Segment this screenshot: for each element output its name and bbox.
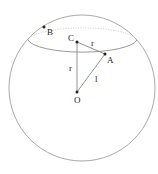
- label-A: A: [107, 55, 114, 65]
- label-r-CA: r: [91, 38, 94, 48]
- point-B: [43, 26, 46, 29]
- label-l-OA: l: [95, 74, 98, 84]
- label-C: C: [68, 33, 74, 43]
- circle-front-arc: [28, 40, 137, 52]
- label-r-CO: r: [69, 63, 72, 73]
- label-O: O: [74, 95, 81, 105]
- point-C: [76, 41, 79, 44]
- sphere-outline: [9, 15, 155, 161]
- segment-OA: [77, 54, 105, 92]
- label-B: B: [47, 27, 53, 37]
- point-O: [76, 91, 79, 94]
- circle-back-arc: [28, 28, 137, 40]
- sphere-diagram: B C A O r r l: [0, 0, 158, 174]
